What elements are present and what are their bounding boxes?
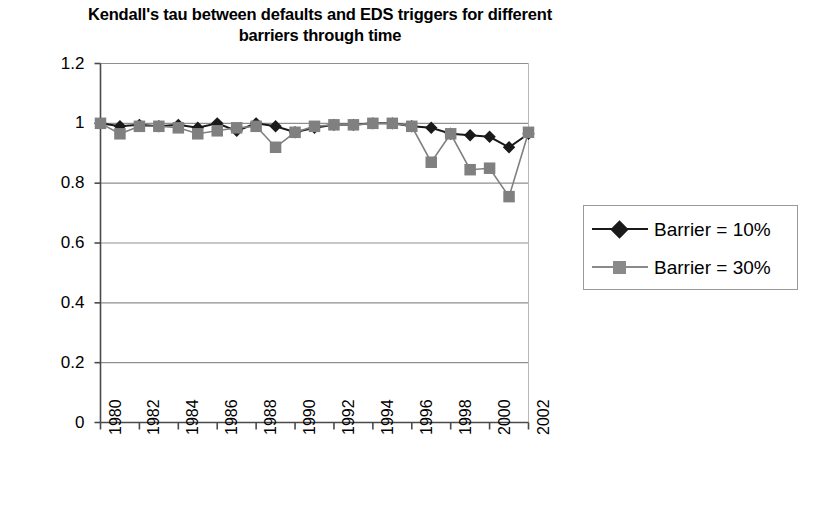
data-point-marker [211,125,223,137]
data-point-marker [231,122,243,134]
data-point-marker [309,121,321,133]
y-tick-label: 0.6 [27,234,85,251]
data-point-marker [523,127,535,139]
data-point-marker [445,128,457,140]
legend-swatch-barrier-30 [592,258,648,276]
data-point-marker [425,156,437,168]
legend-item-barrier-10: Barrier = 10% [592,212,771,246]
y-tick-label: 1 [27,114,85,131]
data-point-marker [173,122,185,134]
x-tick-label: 1998 [458,399,474,435]
x-tick-label: 1982 [146,399,162,435]
data-point-marker [484,162,496,174]
x-tick-label: 1992 [341,399,357,435]
legend-swatch-barrier-10 [592,220,648,238]
data-point-marker [192,128,204,140]
y-tick-label: 0.8 [27,174,85,191]
chart-legend: Barrier = 10% Barrier = 30% [583,205,798,290]
y-tick-label: 0.4 [27,294,85,311]
x-tick-label: 2002 [536,399,552,435]
data-point-marker [95,118,107,130]
data-point-marker [483,131,495,143]
grid-lines [101,64,529,423]
x-tick-label: 1990 [302,399,318,435]
x-tick-label: 1996 [419,399,435,435]
data-point-marker [328,119,340,131]
data-point-marker [406,121,418,133]
x-tick-label: 1986 [224,399,240,435]
x-tick-label: 2000 [497,399,513,435]
y-tick-label: 0 [27,414,85,431]
y-tick-label: 1.2 [27,55,85,72]
y-tick-label: 0.2 [27,354,85,371]
data-point-marker [367,118,379,130]
data-point-marker [153,121,165,133]
legend-label-barrier-10: Barrier = 10% [654,220,771,239]
data-point-marker [503,141,515,153]
x-tick-label: 1994 [380,399,396,435]
data-point-marker [270,142,282,154]
data-point-marker [289,127,301,139]
legend-item-barrier-30: Barrier = 30% [592,250,771,284]
legend-label-barrier-30: Barrier = 30% [654,258,771,277]
x-tick-label: 1988 [263,399,279,435]
data-point-marker [269,120,281,132]
data-series [94,117,534,202]
data-point-marker [250,121,262,133]
chart-container: Kendall's tau between defaults and EDS t… [0,0,830,507]
x-tick-label: 1980 [108,399,124,435]
data-point-marker [464,129,476,141]
data-point-marker [348,119,360,131]
axis-ticks [95,64,529,430]
data-point-marker [134,121,146,133]
data-point-marker [503,191,515,203]
data-point-marker [114,128,126,140]
data-point-marker [387,118,399,130]
data-point-marker [464,164,476,176]
x-tick-label: 1984 [185,399,201,435]
